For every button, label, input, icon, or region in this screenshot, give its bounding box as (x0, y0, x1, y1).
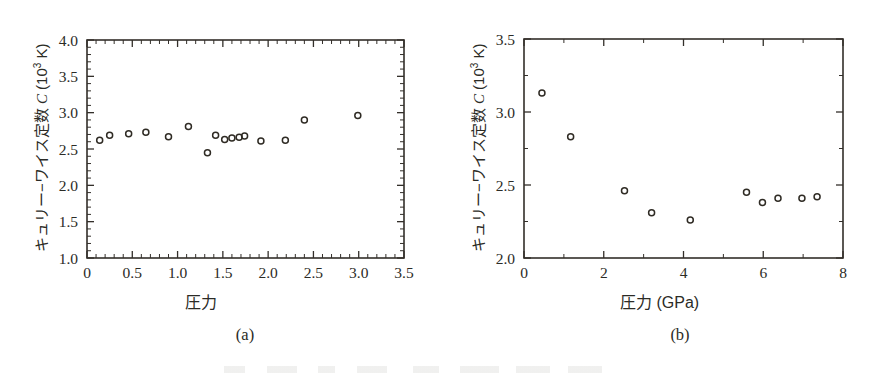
x-axis-title-b: 圧力 (GPa) (620, 289, 699, 313)
y-tick-label: 2.5 (496, 177, 516, 194)
x-tick-label: 3.5 (394, 264, 414, 281)
x-tick-label: 2.5 (304, 264, 324, 281)
y-tick-label: 3.0 (496, 104, 516, 121)
data-point (687, 217, 693, 223)
y-axis-label-text: キュリー−ワイス定数 (33, 104, 50, 252)
y-tick-label: 3.5 (496, 31, 516, 48)
x-tick-label: 6 (759, 264, 767, 281)
figure-container: 00.51.01.52.02.53.03.51.01.52.02.53.03.5… (0, 0, 870, 379)
data-point (204, 150, 210, 156)
y-tick-label: 2.0 (496, 250, 516, 267)
data-point (649, 210, 655, 216)
data-point (775, 195, 781, 201)
data-point (229, 135, 235, 141)
data-point (258, 138, 264, 144)
data-point (539, 90, 545, 96)
x-tick-label: 0 (520, 264, 528, 281)
chart-panel-a: 00.51.01.52.02.53.03.51.01.52.02.53.03.5… (0, 0, 435, 379)
x-tick-label: 0 (83, 264, 91, 281)
plot-frame (87, 40, 404, 258)
y-tick-label: 2.5 (59, 141, 79, 158)
data-point (107, 132, 113, 138)
data-point (143, 129, 149, 135)
data-series (97, 113, 361, 156)
page-text-bleed (215, 366, 645, 373)
y-axis-title-b: キュリー−ワイス定数 C (103 K) (467, 43, 488, 252)
y-axis-unit-exponent: 3 (32, 63, 43, 69)
panel-caption-b: (b) (620, 325, 740, 345)
y-axis-symbol: C (471, 94, 487, 104)
x-axis-title-a: 圧力 (185, 289, 217, 313)
y-tick-label: 1.5 (59, 213, 79, 230)
data-series (539, 90, 820, 223)
data-point (799, 195, 805, 201)
y-axis-label-text: キュリー−ワイス定数 (470, 104, 487, 252)
x-tick-label: 3.0 (349, 264, 369, 281)
data-point (301, 117, 307, 123)
data-point (166, 134, 172, 140)
y-tick-label: 2.0 (59, 177, 79, 194)
data-point (814, 194, 820, 200)
y-axis-unit-open: (10 (33, 68, 50, 94)
data-point (621, 188, 627, 194)
y-axis-symbol: C (34, 94, 50, 104)
plot-frame (524, 39, 843, 258)
data-point (213, 132, 219, 138)
y-axis-unit-exponent: 3 (469, 63, 480, 69)
y-tick-label: 3.5 (59, 68, 79, 85)
x-tick-label: 1.0 (168, 264, 188, 281)
y-axis-unit-close: K) (470, 43, 487, 62)
y-axis-unit-close: K) (33, 43, 50, 62)
x-tick-label: 2.0 (258, 264, 278, 281)
y-tick-label: 1.0 (59, 250, 79, 267)
y-axis-unit-open: (10 (470, 68, 487, 94)
x-tick-label: 1.5 (213, 264, 233, 281)
x-tick-label: 8 (839, 264, 847, 281)
data-point (282, 137, 288, 143)
y-tick-label: 3.0 (59, 104, 79, 121)
data-point (744, 189, 750, 195)
y-tick-label: 4.0 (59, 32, 79, 49)
data-point (126, 131, 132, 137)
x-tick-label: 2 (600, 264, 608, 281)
chart-panel-b: 024682.02.53.03.5 キュリー−ワイス定数 C (103 K) 圧… (435, 0, 870, 379)
data-point (568, 134, 574, 140)
data-point (97, 137, 103, 143)
x-tick-label: 4 (680, 264, 688, 281)
x-tick-label: 0.5 (123, 264, 143, 281)
data-point (222, 137, 228, 143)
scatter-plot-b: 024682.02.53.03.5 (435, 0, 870, 300)
panel-caption-a: (a) (185, 325, 305, 345)
data-point (185, 123, 191, 129)
data-point (355, 113, 361, 119)
scatter-plot-a: 00.51.01.52.02.53.03.51.01.52.02.53.03.5… (0, 0, 435, 300)
y-axis-title-a: キュリー−ワイス定数 C (103 K) (30, 43, 51, 252)
data-point (759, 200, 765, 206)
